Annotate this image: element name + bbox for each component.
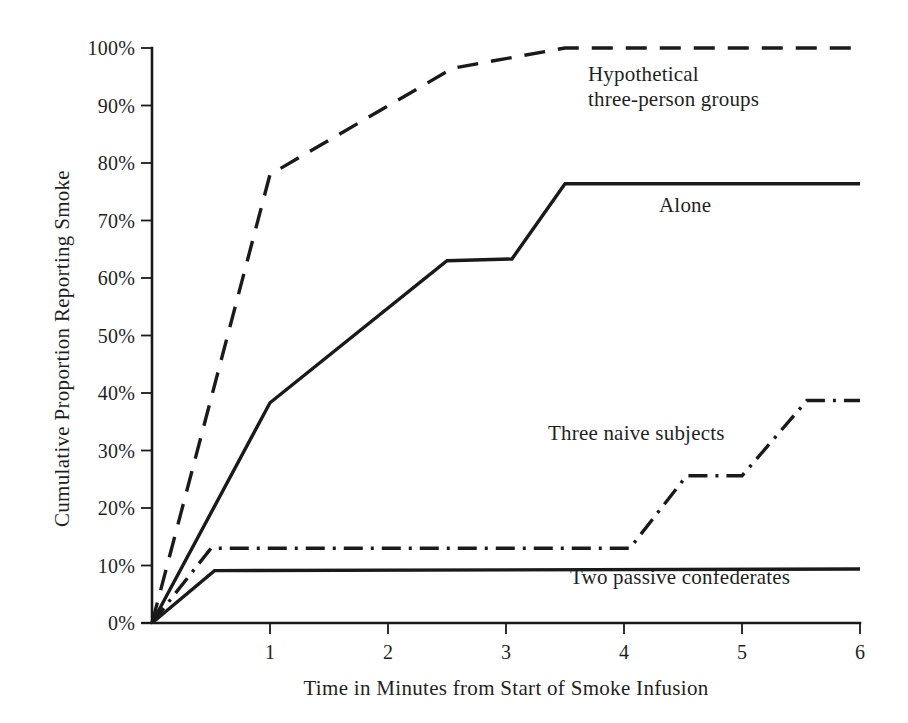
x-axis-tick-label: 4 (619, 641, 629, 664)
y-axis-tick-label: 10% (53, 554, 135, 577)
series-label-line: Alone (659, 193, 711, 218)
series-label-line: three-person groups (588, 87, 759, 112)
series-label-line: Two passive confederates (570, 565, 790, 590)
axis-spines (152, 48, 860, 623)
y-axis-tick-label: 70% (53, 209, 135, 232)
y-axis-tick-label: 90% (53, 94, 135, 117)
y-axis-tick-label: 40% (53, 382, 135, 405)
series-line-hypothetical-three-person-groups (152, 48, 860, 623)
series-label-line: Three naive subjects (548, 421, 725, 446)
x-axis-tick-label: 1 (265, 641, 275, 664)
y-axis-tick-label: 100% (53, 37, 135, 60)
figure-root: Cumulative Proportion Reporting Smoke Ti… (0, 0, 908, 723)
series-label-two-passive-confederates: Two passive confederates (570, 565, 790, 590)
chart-plot-area (0, 0, 908, 723)
series-label-alone: Alone (659, 193, 711, 218)
x-axis-tick-label: 6 (855, 641, 865, 664)
y-axis-tick-label: 80% (53, 152, 135, 175)
x-axis-tick-label: 3 (501, 641, 511, 664)
x-axis-tick-label: 2 (383, 641, 393, 664)
y-axis-tick-label: 0% (53, 612, 135, 635)
y-axis-tick-label: 30% (53, 439, 135, 462)
y-axis-tick-label: 20% (53, 497, 135, 520)
x-axis-tick-label: 5 (737, 641, 747, 664)
series-label-hypothetical-three-person-groups: Hypotheticalthree-person groups (588, 62, 759, 112)
series-label-three-naive-subjects: Three naive subjects (548, 421, 725, 446)
x-axis-title: Time in Minutes from Start of Smoke Infu… (152, 676, 860, 701)
series-line-alone (152, 184, 860, 623)
y-axis-tick-label: 60% (53, 267, 135, 290)
y-axis-tick-label: 50% (53, 324, 135, 347)
series-label-line: Hypothetical (588, 62, 759, 87)
